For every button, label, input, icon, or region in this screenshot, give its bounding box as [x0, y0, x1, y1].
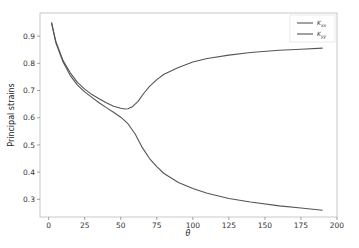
y-tick-label: 0.3: [23, 195, 35, 204]
y-tick-label: 0.9: [23, 32, 35, 41]
x-tick-label: 200: [330, 221, 345, 230]
y-tick-label: 0.6: [23, 113, 35, 122]
x-tick-label: 125: [222, 221, 237, 230]
y-tick-label: 0.8: [23, 59, 35, 68]
x-tick-label: 50: [116, 221, 126, 230]
legend: KxxKyy: [290, 15, 335, 42]
legend-box: [290, 15, 335, 42]
x-tick-label: 150: [258, 221, 273, 230]
x-tick-label: 175: [294, 221, 309, 230]
y-axis-label: Principal strains: [7, 83, 16, 147]
y-tick-label: 0.5: [23, 141, 35, 150]
x-tick-label: 75: [152, 221, 162, 230]
principal-strains-chart: 0255075100125150175200 0.30.40.50.60.70.…: [0, 0, 359, 248]
x-tick-label: 0: [46, 221, 51, 230]
y-tick-label: 0.7: [23, 86, 35, 95]
x-axis-label: θ: [186, 229, 191, 238]
x-tick-label: 25: [80, 221, 90, 230]
y-tick-label: 0.4: [23, 168, 35, 177]
